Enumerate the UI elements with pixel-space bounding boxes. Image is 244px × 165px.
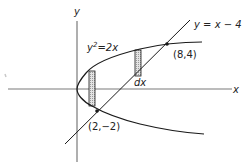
y-axis-label: y <box>73 6 81 17</box>
dx-label: dx <box>134 77 146 88</box>
x-axis-label: x <box>232 84 239 95</box>
line-y-equals-x-minus-4 <box>65 20 190 144</box>
parabola-label: y2=2x <box>86 41 118 53</box>
line-label: y = x − 4 <box>193 19 242 30</box>
point-label-2-neg2: (2,−2) <box>88 121 120 132</box>
point-8-4 <box>165 42 169 46</box>
stray-mark <box>5 74 6 77</box>
point-2-neg2 <box>95 109 99 113</box>
point-label-8-4: (8,4) <box>173 49 197 60</box>
left-strip <box>89 71 95 106</box>
area-between-curves-diagram: x y y2=2x y = x − 4 (8,4) (2,−2) dx <box>0 0 244 165</box>
